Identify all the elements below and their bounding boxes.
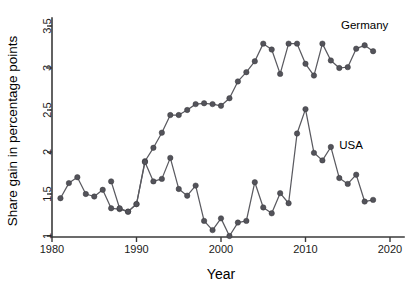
data-point (370, 49, 375, 54)
data-point (92, 194, 97, 199)
data-point (337, 65, 342, 70)
y-tick-label: 3 (41, 65, 53, 71)
x-tick-label: 2010 (293, 243, 317, 255)
data-point (100, 187, 105, 192)
data-point (235, 220, 240, 225)
data-point (176, 112, 181, 117)
data-point (159, 176, 164, 181)
data-point (117, 206, 122, 211)
data-point (218, 216, 223, 221)
data-point (125, 209, 130, 214)
data-point (252, 59, 257, 64)
data-point (151, 179, 156, 184)
series-label-germany: Germany (341, 19, 389, 31)
data-point (261, 41, 266, 46)
data-point (269, 47, 274, 52)
data-point (193, 183, 198, 188)
data-point (176, 186, 181, 191)
data-point (134, 201, 139, 206)
data-point (277, 71, 282, 76)
line-chart: 11.522.533.5 19801990200020102020 German… (0, 0, 415, 287)
data-point (235, 79, 240, 84)
data-point (269, 211, 274, 216)
data-point (210, 101, 215, 106)
data-point (168, 155, 173, 160)
data-point (362, 43, 367, 48)
data-point (328, 144, 333, 149)
data-point (252, 180, 257, 185)
data-point (58, 196, 63, 201)
x-axis-title: Year (207, 266, 236, 282)
data-point (151, 145, 156, 150)
data-point (277, 190, 282, 195)
data-point (108, 179, 113, 184)
data-point (303, 61, 308, 66)
data-point (354, 46, 359, 51)
data-point (311, 73, 316, 78)
y-tick-label: 1 (41, 233, 53, 239)
data-point (66, 180, 71, 185)
y-tick-label: 2 (41, 149, 53, 155)
y-tick-label: 1.5 (41, 186, 53, 201)
data-point (362, 199, 367, 204)
data-point (244, 218, 249, 223)
data-point (261, 205, 266, 210)
data-point (320, 41, 325, 46)
x-tick-label: 2020 (378, 243, 402, 255)
x-tick-label: 1990 (124, 243, 148, 255)
data-point (193, 101, 198, 106)
data-point (328, 58, 333, 63)
data-point (345, 64, 350, 69)
data-point (345, 181, 350, 186)
data-point (337, 175, 342, 180)
data-point (142, 159, 147, 164)
x-tick-label: 2000 (209, 243, 233, 255)
chart-container: 11.522.533.5 19801990200020102020 German… (0, 0, 415, 287)
series-label-usa: USA (339, 139, 363, 151)
y-axis-title: Share gain in percentage points (5, 35, 20, 226)
data-point (286, 41, 291, 46)
data-point (294, 131, 299, 136)
data-point (218, 103, 223, 108)
data-point (168, 112, 173, 117)
data-point (303, 106, 308, 111)
data-point (75, 175, 80, 180)
data-point (244, 70, 249, 75)
data-point (286, 201, 291, 206)
data-point (159, 130, 164, 135)
data-point (185, 193, 190, 198)
data-point (201, 218, 206, 223)
y-tick-label: 3.5 (41, 18, 53, 33)
data-point (227, 233, 232, 238)
data-point (201, 101, 206, 106)
data-point (83, 191, 88, 196)
data-point (320, 158, 325, 163)
data-point (227, 96, 232, 101)
data-point (370, 197, 375, 202)
x-tick-label: 1980 (40, 243, 64, 255)
data-point (354, 172, 359, 177)
data-point (108, 206, 113, 211)
data-point (185, 107, 190, 112)
data-point (294, 41, 299, 46)
data-point (311, 150, 316, 155)
y-tick-label: 2.5 (41, 102, 53, 117)
data-point (210, 227, 215, 232)
